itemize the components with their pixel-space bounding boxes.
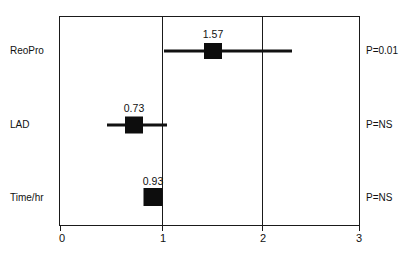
reference-line-2 bbox=[262, 16, 263, 227]
point-marker-reopro bbox=[204, 43, 222, 59]
pvalue-label-timehr: P=NS bbox=[366, 192, 392, 203]
row-label-timehr: Time/hr bbox=[10, 192, 44, 203]
pvalue-label-lad: P=NS bbox=[366, 119, 392, 130]
x-tick-mark-3 bbox=[359, 226, 360, 231]
point-marker-lad bbox=[125, 117, 143, 134]
point-marker-timehr bbox=[144, 188, 163, 206]
point-estimate-label-reopro: 1.57 bbox=[203, 28, 223, 40]
x-tick-mark-0 bbox=[60, 226, 61, 231]
x-tick-label-2: 2 bbox=[260, 232, 266, 245]
x-tick-label-3: 3 bbox=[356, 232, 362, 245]
point-estimate-label-lad: 0.73 bbox=[124, 102, 144, 114]
x-tick-mark-1 bbox=[162, 226, 163, 231]
confidence-interval-reopro bbox=[164, 50, 292, 53]
forest-plot-figure: ReoPro 1.57 P=0.01 LAD 0.73 P=NS Time/hr… bbox=[0, 0, 413, 260]
pvalue-label-reopro: P=0.01 bbox=[366, 45, 398, 56]
point-estimate-label-timehr: 0.93 bbox=[143, 175, 163, 187]
row-label-lad: LAD bbox=[10, 119, 29, 130]
x-tick-label-0: 0 bbox=[59, 232, 65, 245]
row-label-reopro: ReoPro bbox=[10, 45, 44, 56]
x-tick-label-1: 1 bbox=[160, 232, 166, 245]
x-tick-mark-2 bbox=[262, 226, 263, 231]
